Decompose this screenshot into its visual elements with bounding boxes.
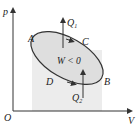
- point-a-label: A: [27, 33, 35, 44]
- heat-top-label: Q1: [67, 17, 77, 29]
- pv-diagram: p V O A B C D W < 0 Q1 Q2: [0, 0, 136, 135]
- origin-label: O: [4, 112, 11, 123]
- work-label: W < 0: [57, 56, 81, 66]
- point-d-label: D: [45, 76, 54, 87]
- point-b-label: B: [104, 76, 110, 87]
- point-c-label: C: [82, 36, 89, 47]
- v-axis-label: V: [128, 115, 136, 126]
- p-axis-label: p: [2, 6, 8, 17]
